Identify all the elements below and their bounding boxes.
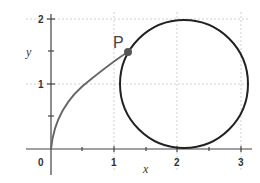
point-p-label: P xyxy=(113,34,124,51)
grid xyxy=(26,12,250,172)
y-tick-1: 1 xyxy=(38,79,44,90)
x-tick-0: 0 xyxy=(38,157,44,168)
diagram-canvas: 2 1 0 1 2 3 y x P xyxy=(0,0,260,183)
y-tick-2: 2 xyxy=(38,14,44,25)
x-tick-2: 2 xyxy=(174,157,180,168)
x-tick-3: 3 xyxy=(238,157,244,168)
x-tick-1: 1 xyxy=(111,157,117,168)
x-axis-label: x xyxy=(142,162,149,176)
curve xyxy=(51,52,128,149)
point-p xyxy=(124,48,132,56)
y-axis-label: y xyxy=(25,45,32,59)
